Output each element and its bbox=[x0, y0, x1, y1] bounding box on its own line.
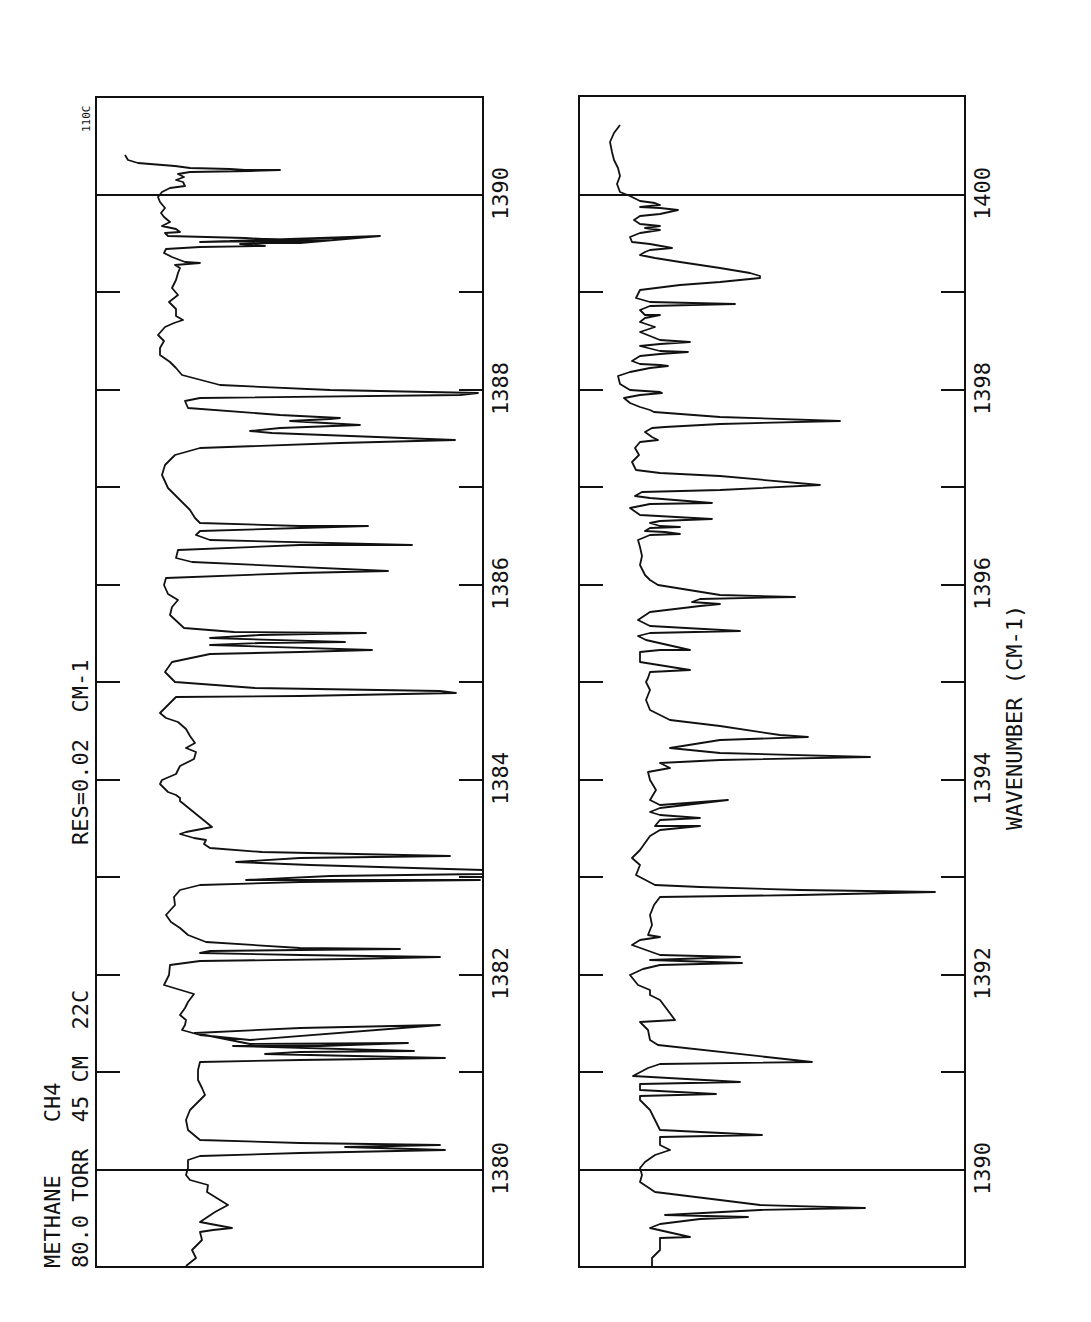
tick-label: 1384 bbox=[488, 752, 513, 805]
tick-label: 1386 bbox=[488, 557, 513, 610]
tick-label: 1396 bbox=[970, 557, 995, 610]
tick-label: 1400 bbox=[970, 167, 995, 220]
temperature-corner-label: 110C bbox=[80, 106, 93, 133]
tick-label: 1392 bbox=[970, 947, 995, 1000]
tick-label: 1394 bbox=[970, 752, 995, 805]
spectrum-figure: 139013881386138413821380 140013981396139… bbox=[0, 0, 1091, 1322]
tick-label: 1390 bbox=[970, 1142, 995, 1195]
x-axis-label: WAVENUMBER (CM-1) bbox=[1002, 605, 1027, 830]
spectrum-trace bbox=[125, 155, 483, 1266]
header-line-2: 80.0 TORR 45 CM 22C bbox=[68, 990, 93, 1268]
resolution-label: RES=0.02 CM-1 bbox=[68, 660, 93, 845]
plot-frame bbox=[96, 97, 483, 1267]
plot-frame bbox=[579, 96, 965, 1267]
header-line-1: METHANE CH4 bbox=[40, 1083, 65, 1268]
tick-label: 1388 bbox=[488, 362, 513, 415]
tick-label: 1382 bbox=[488, 947, 513, 1000]
spectrum-panel-1380-1390: 139013881386138413821380 bbox=[96, 97, 513, 1267]
spectrum-panel-1390-1400: 140013981396139413921390 bbox=[579, 96, 995, 1267]
tick-label: 1398 bbox=[970, 362, 995, 415]
tick-label: 1390 bbox=[488, 167, 513, 220]
spectrum-trace bbox=[610, 125, 935, 1266]
tick-label: 1380 bbox=[488, 1142, 513, 1195]
